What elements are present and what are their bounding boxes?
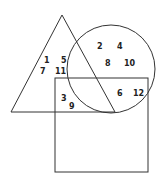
circle-shape [67, 25, 155, 113]
region-number-label: 10 [124, 59, 136, 68]
region-number-label: 8 [105, 59, 111, 68]
region-number-label: 5 [61, 56, 67, 65]
region-number-label: 12 [133, 89, 144, 98]
region-number-label: 11 [55, 67, 67, 76]
region-number-label: 3 [61, 94, 67, 103]
region-number-label: 4 [117, 42, 123, 51]
region-number-label: 6 [117, 89, 123, 98]
region-number-label: 2 [97, 42, 103, 51]
region-number-label: 9 [69, 102, 75, 111]
region-number-label: 1 [44, 56, 50, 65]
venn-diagram: 157112481039612 [0, 0, 164, 181]
region-number-label: 7 [40, 67, 46, 76]
